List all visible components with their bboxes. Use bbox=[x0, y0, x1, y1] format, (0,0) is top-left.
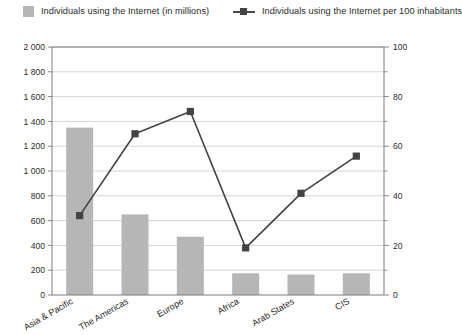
left-tick-label: 800 bbox=[31, 191, 46, 201]
line-marker bbox=[297, 190, 304, 197]
bar bbox=[122, 214, 149, 295]
left-tick-label: 400 bbox=[31, 241, 46, 251]
line-marker bbox=[353, 153, 360, 160]
left-tick-label: 0 bbox=[40, 290, 45, 300]
bar bbox=[66, 128, 93, 295]
right-tick-label: 0 bbox=[393, 290, 398, 300]
category-label: The Americas bbox=[77, 296, 130, 332]
trend-line bbox=[80, 111, 357, 247]
left-tick-label: 1 400 bbox=[23, 117, 45, 127]
left-tick-label: 1 200 bbox=[23, 141, 45, 151]
left-axis-ticks: 02004006008001 0001 2001 4001 6001 8002 … bbox=[23, 42, 52, 300]
category-label: Europe bbox=[155, 296, 185, 319]
category-labels: Asia & PacificThe AmericasEuropeAfricaAr… bbox=[22, 296, 351, 332]
right-axis-ticks: 020406080100 bbox=[384, 42, 408, 300]
category-label: Asia & Pacific bbox=[22, 296, 75, 332]
right-tick-label: 100 bbox=[393, 42, 408, 52]
line-series bbox=[76, 108, 360, 252]
left-tick-label: 1 600 bbox=[23, 92, 45, 102]
left-tick-label: 200 bbox=[31, 265, 46, 275]
category-label: CIS bbox=[333, 296, 351, 312]
bar bbox=[232, 273, 259, 295]
line-marker bbox=[242, 244, 249, 251]
right-tick-label: 60 bbox=[393, 141, 403, 151]
right-tick-label: 40 bbox=[393, 191, 403, 201]
bar bbox=[288, 275, 315, 295]
category-label: Africa bbox=[216, 296, 241, 316]
right-tick-label: 20 bbox=[393, 241, 403, 251]
left-tick-label: 1 000 bbox=[23, 166, 45, 176]
category-label: Arab States bbox=[250, 296, 296, 328]
bar bbox=[343, 273, 370, 295]
right-tick-label: 80 bbox=[393, 92, 403, 102]
left-tick-label: 1 800 bbox=[23, 67, 45, 77]
left-tick-label: 2 000 bbox=[23, 42, 45, 52]
line-marker bbox=[187, 108, 194, 115]
line-marker bbox=[131, 130, 138, 137]
line-marker bbox=[76, 212, 83, 219]
left-tick-label: 600 bbox=[31, 216, 46, 226]
bar bbox=[177, 237, 204, 295]
